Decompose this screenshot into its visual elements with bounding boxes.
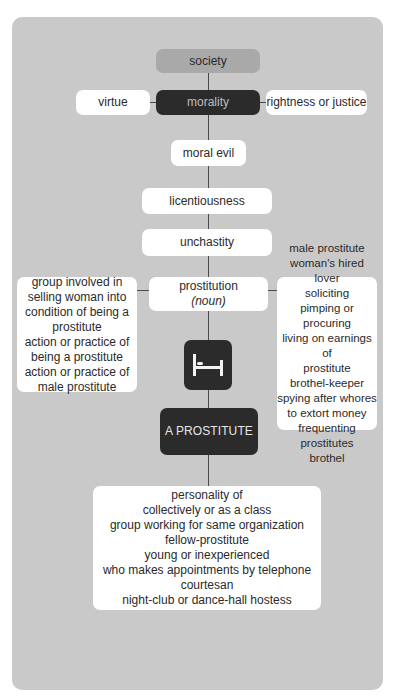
right-branch-line: pimping or procuring [277, 301, 377, 331]
bottom-branch-line: group working for same organization [110, 518, 304, 533]
left-branch-line: male prostitute [38, 380, 117, 395]
right-branch-line: soliciting [305, 286, 349, 301]
node-licentiousness-label: licentiousness [169, 194, 244, 209]
node-a-prostitute-label: A PROSTITUTE [165, 424, 253, 439]
node-left-branch: group involved in selling woman into con… [17, 277, 137, 392]
node-unchastity: unchastity [142, 229, 272, 256]
right-branch-line: living on earnings of [277, 331, 377, 361]
node-morality-label: morality [187, 95, 229, 110]
node-a-prostitute: A PROSTITUTE [160, 408, 258, 455]
cropped-header [0, 0, 393, 6]
left-branch-line: action or practice of [25, 365, 130, 380]
node-right-branch: male prostitute woman's hired lover soli… [277, 277, 377, 430]
right-branch-line: spying after whores [277, 391, 377, 406]
node-prostitution-pos: (noun) [191, 294, 226, 309]
right-branch-line: frequenting prostitutes [277, 421, 377, 451]
node-society: society [156, 49, 260, 73]
connector-right-branch [268, 290, 277, 291]
node-morality: morality [156, 90, 260, 115]
node-virtue-label: virtue [98, 95, 127, 110]
right-branch-line: prostitute [303, 361, 350, 376]
node-bottom-branch: personality of collectively or as a clas… [93, 486, 321, 610]
left-branch-line: being a prostitute [31, 350, 123, 365]
right-branch-line: brothel [309, 451, 344, 466]
right-branch-line: brothel-keeper [290, 376, 364, 391]
bottom-branch-line: courtesan [181, 578, 234, 593]
node-unchastity-label: unchastity [180, 235, 234, 250]
bed-icon [191, 352, 225, 378]
node-licentiousness: licentiousness [142, 188, 272, 214]
bed-icon-box [184, 340, 232, 390]
bottom-branch-line: collectively or as a class [143, 503, 272, 518]
right-branch-line: male prostitute [289, 241, 364, 256]
node-moral-evil: moral evil [171, 140, 246, 166]
right-branch-line: woman's hired lover [277, 256, 377, 286]
bottom-branch-line: night-club or dance-hall hostess [122, 593, 291, 608]
node-moral-evil-label: moral evil [183, 146, 234, 161]
node-prostitution: prostitution (noun) [149, 277, 268, 311]
node-rightness-label: rightness or justice [266, 95, 366, 110]
left-branch-line: selling woman into [28, 290, 127, 305]
node-society-label: society [189, 54, 226, 69]
bottom-branch-line: who makes appointments by telephone [103, 563, 311, 578]
bottom-branch-line: young or inexperienced [145, 548, 270, 563]
left-branch-line: group involved in [32, 275, 123, 290]
bottom-branch-line: personality of [171, 488, 242, 503]
node-prostitution-label: prostitution [179, 279, 238, 294]
left-branch-line: prostitute [52, 320, 101, 335]
left-branch-line: condition of being a [25, 305, 129, 320]
connector-left-branch [137, 290, 149, 291]
node-rightness-or-justice: rightness or justice [266, 90, 367, 115]
left-branch-line: action or practice of [25, 335, 130, 350]
right-branch-line: to extort money [287, 406, 366, 421]
node-virtue: virtue [76, 90, 150, 115]
bottom-branch-line: fellow-prostitute [165, 533, 249, 548]
